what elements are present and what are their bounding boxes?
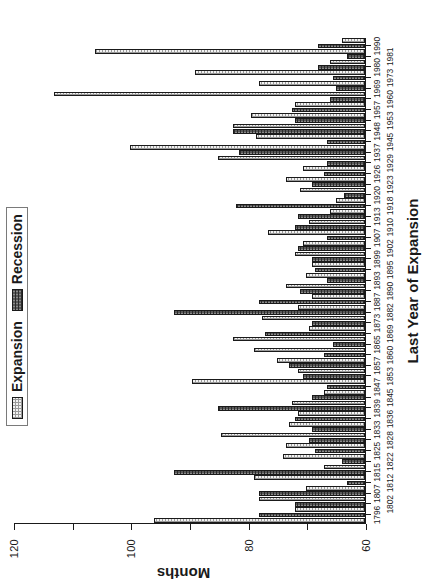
x-tick-cell [366, 432, 371, 437]
x-tick-cell [366, 512, 371, 517]
bar-1980-recession [318, 65, 365, 70]
bar-1828-recession [309, 438, 365, 443]
y-tick-label-60: 60 [360, 539, 372, 552]
bar-1882-recession [174, 310, 365, 315]
bar-1899-recession [312, 257, 365, 262]
bar-1969-expansion [54, 92, 365, 97]
x-tick-cell [366, 299, 371, 304]
x-tick-1815 [366, 471, 371, 472]
bar-1948-recession [233, 129, 365, 134]
x-tick-1923 [366, 184, 371, 185]
bar-1812-recession [347, 481, 365, 486]
bar-1926-expansion [286, 177, 365, 182]
bar-1869-recession [265, 332, 365, 337]
x-tick-1836 [366, 418, 371, 419]
x-tick-cell [366, 182, 371, 187]
x-tick-cell [366, 193, 371, 198]
bar-1907-recession [327, 236, 365, 241]
bar-1981-recession [347, 54, 365, 59]
bar-1873-recession [312, 321, 365, 326]
x-tick-1822 [366, 461, 371, 462]
x-tick-cell [366, 315, 371, 320]
y-tick-20: 20 [307, 524, 308, 530]
x-tick-cell [366, 209, 371, 214]
x-tick-cell [366, 86, 371, 91]
x-tick-cell [366, 241, 371, 246]
bar-1890-expansion [312, 294, 365, 299]
x-tick-cell [366, 97, 371, 102]
x-tick-cell [366, 448, 371, 453]
bar-1845-expansion [292, 401, 365, 406]
bar-1865-recession [333, 342, 365, 347]
x-tick-cell [366, 384, 371, 389]
x-tick-1887 [366, 301, 371, 302]
bar-1957-expansion [251, 113, 365, 118]
bar-1893-recession [327, 278, 365, 283]
x-tick-1873 [366, 322, 371, 323]
x-tick-cell [366, 251, 371, 256]
x-tick-cell [366, 70, 371, 75]
x-tick-cell [366, 486, 371, 491]
x-tick-1899 [366, 258, 371, 259]
bar-1853-recession [303, 374, 365, 379]
bar-1902-expansion [295, 252, 365, 257]
x-tick-cell [366, 59, 371, 64]
x-tick-cell [366, 363, 371, 368]
x-tick-cell [366, 416, 371, 421]
x-tick-cell [366, 203, 371, 208]
x-tick-cell [366, 219, 371, 224]
x-tick-1833 [366, 429, 371, 430]
bar-1893-expansion [286, 284, 365, 289]
x-tick-cell [366, 310, 371, 315]
x-tick-cell [366, 283, 371, 288]
x-tick-cell [366, 171, 371, 176]
x-tick-1920 [366, 194, 371, 195]
x-tick-1802 [366, 503, 371, 504]
bar-1822-recession [342, 459, 365, 464]
x-tick-1913 [366, 216, 371, 217]
x-tick-1957 [366, 109, 371, 110]
x-tick-cell [366, 257, 371, 262]
x-tick-1812 [366, 482, 371, 483]
x-tick-cell [366, 166, 371, 171]
x-tick-cell [366, 507, 371, 512]
x-tick-cell [366, 267, 371, 272]
x-label-cell [372, 38, 406, 43]
y-tick-60: 60 [190, 524, 191, 530]
x-tick-1953 [366, 120, 371, 121]
bar-1953-expansion [233, 124, 365, 129]
x-tick-cell [366, 278, 371, 283]
y-tick-100: 100 [73, 524, 74, 530]
x-tick-1980 [366, 66, 371, 67]
bar-1807-expansion [259, 497, 365, 502]
bar-1873-expansion [309, 326, 365, 331]
x-tick-1918 [366, 205, 371, 206]
bar-1845-recession [312, 395, 365, 400]
x-tick-cell [366, 443, 371, 448]
bar-1980-expansion [195, 70, 365, 75]
x-tick-cell [366, 49, 371, 54]
bar-1913-recession [298, 214, 365, 219]
x-tick-cell [366, 38, 371, 43]
x-tick-cell [366, 438, 371, 443]
bar-1960-recession [330, 97, 365, 102]
x-tick-1853 [366, 375, 371, 376]
bar-1899-expansion [312, 262, 365, 267]
x-tick-cell [366, 454, 371, 459]
bar-1802-expansion [295, 507, 365, 512]
x-tick-cell [366, 118, 371, 123]
x-tick-cell [366, 65, 371, 70]
x-tick-cell [366, 480, 371, 485]
bar-1990-expansion [95, 49, 365, 54]
bar-1960-expansion [295, 102, 365, 107]
x-tick-1845 [366, 397, 371, 398]
x-tick-1828 [366, 439, 371, 440]
bar-1839-expansion [298, 411, 365, 416]
x-tick-cell [366, 390, 371, 395]
x-axis-tick-labels: 1796180218071812181518221825182818331836… [372, 38, 406, 523]
x-tick-1895 [366, 269, 371, 270]
x-tick-cell [366, 496, 371, 501]
x-tick-cell [366, 113, 371, 118]
x-tick-1945 [366, 141, 371, 142]
bar-1815-recession [174, 470, 365, 475]
